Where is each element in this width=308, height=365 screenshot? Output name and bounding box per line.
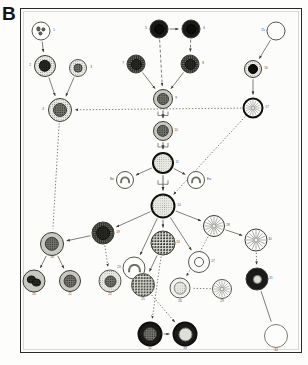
cell-label: Eo (207, 178, 211, 181)
cell-label: 3 (90, 66, 92, 69)
cell-8 (181, 55, 200, 74)
cell-25 (131, 273, 155, 297)
cell-label: 1 (53, 29, 55, 32)
cell-2 (34, 55, 56, 77)
cell-nucleus (157, 93, 169, 105)
cell-19 (92, 222, 115, 245)
cell-ne (116, 171, 134, 189)
cell-18 (40, 232, 64, 256)
cell-11 (152, 152, 174, 174)
cell-nucleus (252, 274, 261, 283)
cell-label: 32 (148, 347, 151, 350)
cell-label: 34 (274, 349, 277, 352)
figure-frame (20, 8, 302, 353)
cell-24 (151, 231, 176, 256)
cell-label: 4 (42, 108, 44, 111)
cell-label: 33 (183, 347, 186, 350)
cell-label: 29 (220, 300, 223, 303)
cell-33 (173, 322, 198, 347)
cell-label: 14 (177, 204, 180, 207)
figure-panel: B 1234567891011NeEo141516171819202122232… (0, 0, 308, 365)
cell-29 (212, 279, 232, 299)
cell-nucleus-lobe (32, 278, 41, 286)
cell-14 (151, 194, 176, 219)
cell-label: Ne (110, 178, 114, 181)
cell-10 (153, 121, 173, 141)
cell-17 (243, 98, 264, 119)
cell-band-nucleus (127, 264, 140, 274)
cell-6 (182, 20, 201, 39)
cell-label: 6 (203, 27, 205, 30)
cell-radial-striations (246, 230, 267, 251)
cell-label: 16 (264, 67, 267, 70)
cell-label: 7 (122, 62, 124, 65)
cell-label: 15 (261, 29, 264, 32)
cell-nucleus (74, 64, 83, 73)
cell-9 (153, 89, 173, 109)
cell-label: 31 (269, 277, 272, 280)
cell-31 (246, 268, 269, 291)
cell-label: 8 (202, 62, 204, 65)
cell-28 (203, 215, 225, 237)
cell-nucleus (248, 64, 258, 74)
cell-label: 23 (117, 266, 120, 269)
cell-label: 18 (50, 256, 53, 259)
cell-label: 28 (226, 224, 229, 227)
cell-5 (150, 20, 169, 39)
cell-22 (99, 270, 122, 293)
cell-nucleus (104, 275, 116, 287)
cell-eo (187, 171, 205, 189)
cell-radial-striations (213, 280, 231, 298)
cell-nucleus (130, 58, 141, 69)
cell-label: 27 (211, 260, 214, 263)
cell-nucleus-ring (194, 257, 204, 267)
panel-letter: B (2, 4, 16, 23)
cell-nucleus (186, 24, 196, 34)
cell-30 (245, 229, 268, 252)
cell-16 (244, 60, 262, 78)
cell-nucleus-lobe (39, 31, 43, 35)
cell-15 (267, 22, 286, 41)
cell-nucleus (157, 125, 169, 137)
cell-label: 21 (68, 293, 71, 296)
cell-nucleus (178, 327, 192, 341)
cell-label: 22 (108, 293, 111, 296)
cell-radial-striations (204, 216, 224, 236)
cell-nucleus (45, 237, 59, 251)
cell-27 (188, 251, 210, 273)
cell-4 (48, 98, 72, 122)
cell-label: 10 (174, 129, 177, 132)
cell-1 (32, 22, 51, 41)
cell-3 (69, 59, 87, 77)
cell-label: 5 (145, 27, 147, 30)
cell-nucleus (53, 103, 67, 117)
cell-label: 11 (175, 161, 178, 164)
cell-nucleus (64, 275, 77, 288)
cell-20 (23, 270, 46, 293)
cell-label: 30 (268, 238, 271, 241)
cell-label: 25 (141, 298, 144, 301)
cell-label: 26 (178, 300, 181, 303)
cell-label: 24 (176, 241, 179, 244)
cell-label: 9 (175, 97, 177, 100)
cell-7 (127, 55, 146, 74)
cell-label: 17 (265, 106, 268, 109)
cell-32 (138, 322, 163, 347)
cell-nucleus (154, 24, 164, 34)
cell-21 (59, 270, 81, 292)
cell-nucleus (39, 60, 51, 72)
cell-nucleus (96, 226, 111, 241)
cell-band-nucleus (191, 177, 201, 184)
cell-26 (170, 278, 191, 299)
cell-nucleus-core (173, 281, 187, 295)
cell-label: 19 (116, 231, 119, 234)
cell-nucleus (143, 327, 158, 342)
cell-radial-striations (245, 100, 262, 117)
cell-band-nucleus (120, 177, 130, 184)
cell-34 (264, 324, 288, 348)
cell-nucleus (184, 58, 195, 69)
cell-label: 20 (32, 293, 35, 296)
cell-label: 2 (29, 64, 31, 67)
